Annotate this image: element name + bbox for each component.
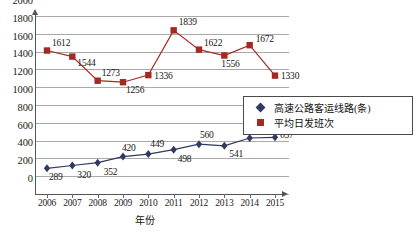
- data-label: 1256: [126, 85, 144, 95]
- data-label: 352: [104, 167, 118, 177]
- data-label: 498: [178, 154, 192, 164]
- diamond-marker-icon: [196, 140, 202, 148]
- data-label: 1556: [221, 59, 239, 69]
- data-label: 1839: [179, 17, 197, 27]
- data-label: 541: [229, 149, 243, 159]
- chart-figure: 2000180016001400120010008006004002000 20…: [0, 0, 420, 235]
- legend-label-departures: 平均日发班次: [274, 115, 334, 130]
- diamond-marker-icon: [247, 134, 253, 142]
- square-marker-icon: [170, 27, 176, 33]
- legend: 高速公路客运线路(条) 平均日发班次: [243, 96, 413, 135]
- data-label: 1273: [102, 68, 120, 78]
- square-marker-icon: [69, 53, 75, 59]
- diamond-marker-icon: [95, 159, 101, 167]
- data-label: 320: [77, 170, 91, 180]
- square-marker-icon: [272, 72, 278, 78]
- legend-label-routes: 高速公路客运线路(条): [274, 100, 371, 115]
- diamond-marker-icon: [171, 146, 177, 154]
- legend-item-daily-departures[interactable]: 平均日发班次: [248, 115, 408, 130]
- diamond-marker-icon: [69, 162, 75, 170]
- square-marker-icon: [145, 72, 151, 78]
- legend-key-diamond: [248, 102, 274, 114]
- square-marker-icon: [94, 78, 100, 84]
- data-label: 1544: [77, 58, 95, 68]
- square-marker-icon: [246, 42, 252, 48]
- legend-item-line-routes[interactable]: 高速公路客运线路(条): [248, 100, 408, 115]
- data-label: 1622: [204, 38, 222, 48]
- square-marker-icon: [257, 119, 264, 126]
- diamond-marker-icon: [145, 150, 151, 158]
- diamond-marker-icon: [256, 103, 266, 113]
- legend-key-square: [248, 117, 274, 129]
- data-label: 449: [150, 139, 164, 149]
- diamond-marker-icon: [44, 164, 50, 172]
- data-label: 289: [49, 172, 63, 182]
- data-label: 1672: [256, 34, 274, 44]
- data-label: 560: [200, 130, 214, 140]
- square-marker-icon: [196, 46, 202, 52]
- diamond-marker-icon: [120, 153, 126, 161]
- data-label: 1612: [52, 38, 70, 48]
- diamond-marker-icon: [221, 142, 227, 150]
- data-label: 1330: [281, 71, 299, 81]
- data-label: 1336: [154, 71, 172, 81]
- data-label: 420: [122, 143, 136, 153]
- square-marker-icon: [44, 47, 50, 53]
